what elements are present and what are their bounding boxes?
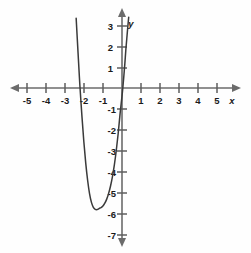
coordinate-plane-svg: -5 -4 -3 -2 -1 1 2 3 4 5 3 2 1 -1 -2 -3 … [0,0,251,253]
x-tick-label-4: 4 [195,95,201,106]
x-tick-label-5: 5 [214,95,220,106]
y-tick-label-1: 1 [108,63,114,74]
x-axis-label: x [228,95,235,106]
function-curve [76,17,129,209]
y-tick-label-neg7: -7 [108,230,116,241]
y-tick-label-neg2: -2 [108,125,116,136]
y-axis-bottom-arrow-icon [118,238,126,247]
y-tick-label-neg3: -3 [108,146,116,157]
y-tick-label-3: 3 [108,21,113,32]
x-axis-left-arrow-icon [10,84,19,92]
graph-figure: -5 -4 -3 -2 -1 1 2 3 4 5 3 2 1 -1 -2 -3 … [0,0,251,253]
x-tick-label-neg4: -4 [42,95,51,106]
x-tick-label-neg3: -3 [61,95,69,106]
x-tick-label-neg1: -1 [99,95,108,106]
y-tick-label-neg1: -1 [108,104,117,115]
y-tick-label-2: 2 [108,42,113,53]
x-tick-label-3: 3 [176,95,181,106]
y-tick-label-neg6: -6 [108,209,116,220]
x-tick-label-2: 2 [157,95,162,106]
x-tick-label-neg5: -5 [23,95,32,106]
x-axis-right-arrow-icon [232,84,241,92]
x-tick-label-1: 1 [138,95,144,106]
y-axis-top-arrow-icon [118,8,126,17]
